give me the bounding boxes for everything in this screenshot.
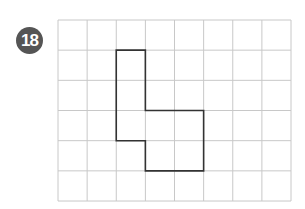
grid-diagram — [0, 0, 305, 209]
